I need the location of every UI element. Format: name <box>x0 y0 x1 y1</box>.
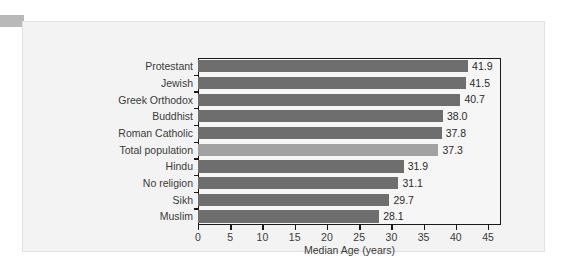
bar-value-label: 37.3 <box>442 143 462 157</box>
x-axis-tick-label: 35 <box>418 231 430 244</box>
bar <box>198 144 438 156</box>
y-axis-tick <box>194 125 198 126</box>
bar-row: Buddhist38.0 <box>198 108 501 125</box>
x-axis-tick-label: 30 <box>386 231 398 244</box>
x-axis-tick <box>488 225 489 230</box>
bar-value-label: 41.5 <box>470 76 490 90</box>
bar-value-label: 31.1 <box>402 176 422 190</box>
bar <box>198 110 443 122</box>
x-axis-tick-label: 0 <box>195 231 201 244</box>
x-axis-tick-label: 25 <box>353 231 365 244</box>
x-axis-tick-label: 20 <box>321 231 333 244</box>
bar-row: Muslim28.1 <box>198 208 501 225</box>
bar-rows: Protestant41.9Jewish41.5Greek Orthodox40… <box>198 58 501 225</box>
corner-tab-marker <box>0 15 24 27</box>
bar <box>198 160 404 172</box>
x-axis-tick <box>456 225 457 230</box>
category-label: Roman Catholic <box>118 126 193 140</box>
x-axis-tick-label: 5 <box>227 231 233 244</box>
y-axis-tick <box>194 158 198 159</box>
x-axis-tick-label: 15 <box>289 231 301 244</box>
bar-value-label: 40.7 <box>464 92 484 106</box>
x-axis-tick-label: 45 <box>482 231 494 244</box>
x-axis-tick-label: 10 <box>257 231 269 244</box>
bar-value-label: 38.0 <box>447 109 467 123</box>
y-axis-tick <box>194 175 198 176</box>
x-axis-title: Median Age (years) <box>198 244 501 256</box>
x-axis-tick <box>391 225 392 230</box>
x-axis-tick-label: 40 <box>450 231 462 244</box>
x-axis-tick <box>359 225 360 230</box>
bar-value-label: 41.9 <box>472 59 492 73</box>
category-label: Jewish <box>161 76 193 90</box>
y-axis-tick <box>194 142 198 143</box>
bar-row: Sikh29.7 <box>198 192 501 209</box>
category-label: Muslim <box>160 209 193 223</box>
bar-value-label: 28.1 <box>383 209 403 223</box>
bar-row: Jewish41.5 <box>198 75 501 92</box>
y-axis-tick <box>194 108 198 109</box>
bar <box>198 127 442 139</box>
y-axis-tick <box>194 208 198 209</box>
bar <box>198 177 398 189</box>
category-label: Protestant <box>145 59 193 73</box>
bar-row: Total population37.3 <box>198 142 501 159</box>
bar-row: Greek Orthodox40.7 <box>198 91 501 108</box>
x-axis-tick <box>198 225 199 230</box>
bar <box>198 60 468 72</box>
bar-value-label: 31.9 <box>408 159 428 173</box>
bar-value-label: 37.8 <box>446 126 466 140</box>
x-axis-tick <box>262 225 263 230</box>
category-label: Buddhist <box>152 109 193 123</box>
figure-root: Protestant41.9Jewish41.5Greek Orthodox40… <box>0 0 563 273</box>
category-label: Total population <box>119 143 193 157</box>
category-label: Greek Orthodox <box>118 93 193 107</box>
x-axis-tick <box>327 225 328 230</box>
bar-row: Hindu31.9 <box>198 158 501 175</box>
category-label: No religion <box>143 176 193 190</box>
y-axis-tick <box>194 192 198 193</box>
bar <box>198 194 389 206</box>
bar-row: Protestant41.9 <box>198 58 501 75</box>
x-axis-tick <box>424 225 425 230</box>
y-axis-tick <box>194 91 198 92</box>
bar-value-label: 29.7 <box>393 193 413 207</box>
y-axis-tick <box>194 75 198 76</box>
bar-row: Roman Catholic37.8 <box>198 125 501 142</box>
x-axis-tick <box>230 225 231 230</box>
bar <box>198 94 460 106</box>
category-label: Sikh <box>173 193 193 207</box>
x-axis-tick <box>295 225 296 230</box>
bar <box>198 210 379 222</box>
bar <box>198 77 466 89</box>
category-label: Hindu <box>166 159 193 173</box>
bar-row: No religion31.1 <box>198 175 501 192</box>
chart-panel: Protestant41.9Jewish41.5Greek Orthodox40… <box>22 21 545 252</box>
